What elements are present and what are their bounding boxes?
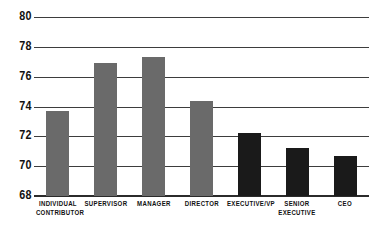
x-label-line-1: EXECUTIVE/VP xyxy=(227,200,271,209)
x-label-line-1: DIRECTOR xyxy=(179,200,223,209)
x-label-manager: MANAGER xyxy=(132,200,176,209)
x-axis-category-labels: INDIVIDUALCONTRIBUTORSUPERVISORMANAGERDI… xyxy=(0,0,377,232)
x-label-line-1: SENIOR xyxy=(275,200,319,209)
x-label-line-1: MANAGER xyxy=(132,200,176,209)
x-label-line-1: SUPERVISOR xyxy=(84,200,128,209)
bar-chart: 68707274767880 INDIVIDUALCONTRIBUTORSUPE… xyxy=(0,0,377,232)
x-label-line-2: CONTRIBUTOR xyxy=(36,209,80,218)
x-label-supervisor: SUPERVISOR xyxy=(84,200,128,209)
x-label-individual-contributor: INDIVIDUALCONTRIBUTOR xyxy=(36,200,80,217)
x-label-ceo: CEO xyxy=(323,200,367,209)
x-label-line-1: CEO xyxy=(323,200,367,209)
x-label-director: DIRECTOR xyxy=(179,200,223,209)
x-label-line-2: EXECUTIVE xyxy=(275,209,319,218)
x-label-senior-executive: SENIOREXECUTIVE xyxy=(275,200,319,217)
x-label-line-1: INDIVIDUAL xyxy=(36,200,80,209)
x-label-executive-vp: EXECUTIVE/VP xyxy=(227,200,271,209)
